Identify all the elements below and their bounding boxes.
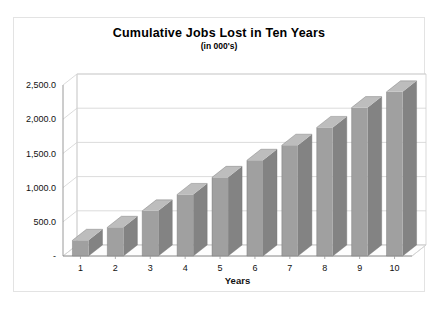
x-axis-tick-label: 8 [322,263,327,273]
bar-year-3 [142,200,172,256]
x-axis-tick-label: 2 [113,263,118,273]
x-axis-tick-label: 1 [78,263,83,273]
y-axis-tick-label: 1,500.0 [26,149,56,159]
x-axis-title: Years [225,275,250,286]
y-axis-tick-label: 1,000.0 [26,183,56,193]
gridline-connector-1500 [63,142,77,153]
bar-front [107,227,123,256]
plot-area: -500.01,000.01,500.02,000.02,500.0123456… [14,18,426,293]
bar-front [352,108,368,256]
bar-year-6 [247,149,277,256]
y-axis-tick-label: - [53,251,56,261]
bar-side [333,116,347,256]
bar-year-4 [177,183,207,256]
bar-front [177,194,193,256]
y-axis-tick-label: 500.0 [33,217,56,227]
bar-year-9 [352,97,382,256]
bar-front [212,177,228,256]
bar-side [403,81,417,256]
x-axis-tick-label: 7 [287,263,292,273]
bar-front [142,211,158,256]
x-axis-tick-label: 9 [357,263,362,273]
bar-side [228,166,242,256]
bar-year-10 [387,81,417,256]
bar-year-5 [212,166,242,256]
x-axis-tick-label: 4 [183,263,188,273]
chart-card: Cumulative Jobs Lost in Ten Years (in 00… [13,17,425,292]
bar-front [247,160,263,256]
gridline-connector-2500 [63,74,77,85]
bar-front [72,240,88,256]
bar-side [193,183,207,256]
x-axis-tick-label: 5 [218,263,223,273]
x-axis-tick-label: 6 [252,263,257,273]
bar-year-7 [282,134,312,256]
gridline-connector-500 [63,211,77,222]
bar-chart-svg: -500.01,000.01,500.02,000.02,500.0123456… [14,18,426,293]
bar-year-8 [317,116,347,256]
gridline-connector-1000 [63,177,77,188]
bar-side [263,149,277,256]
x-axis-tick-label: 10 [390,263,400,273]
x-axis-tick-label: 3 [148,263,153,273]
gridline-connector-2000 [63,108,77,119]
bar-front [317,127,333,256]
bar-front [387,92,403,256]
y-axis-tick-label: 2,000.0 [26,114,56,124]
bar-side [368,97,382,256]
bar-side [298,134,312,256]
bar-front [282,145,298,256]
y-axis-tick-label: 2,500.0 [26,80,56,90]
